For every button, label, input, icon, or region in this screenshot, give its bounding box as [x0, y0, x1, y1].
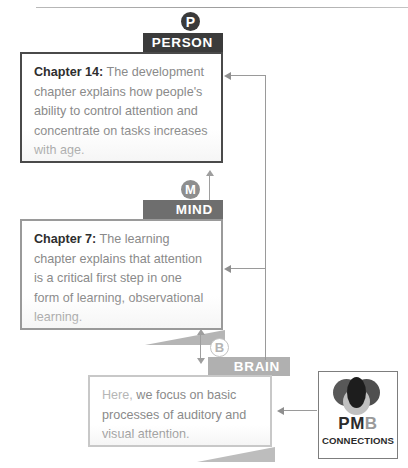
- page-top-rule: [36, 7, 408, 8]
- tab-mind-label: MIND: [176, 202, 213, 217]
- person-text: Chapter 14: The development chapter expl…: [34, 63, 210, 161]
- arrow-person-mind-line: [209, 175, 210, 201]
- connector-to-person-arrowhead-icon: [224, 72, 231, 80]
- pmb-connections-logo[interactable]: PMB CONNECTIONS: [318, 371, 398, 459]
- mind-text-box: Chapter 7: The learning chapter explains…: [20, 219, 223, 330]
- mind-badge-icon: M: [181, 180, 200, 199]
- connector-logo-to-brain-line: [283, 410, 317, 411]
- person-badge-icon: P: [181, 12, 200, 31]
- connector-to-mind-line: [229, 268, 265, 269]
- logo-wordmark-pm: PM: [338, 414, 365, 433]
- logo-subtitle: CONNECTIONS: [322, 435, 394, 446]
- person-text-box: Chapter 14: The development chapter expl…: [20, 52, 223, 163]
- arrow-mind-brain-line: [200, 334, 201, 359]
- arrow-mind-brain-down-icon: [197, 358, 205, 364]
- brain-text: Here, we focus on basic processes of aud…: [102, 386, 259, 445]
- mind-chapter-label: Chapter 7:: [34, 232, 96, 246]
- logo-wordmark: PMB: [338, 415, 377, 432]
- brain-box-tail: [197, 447, 275, 462]
- brain-badge-icon: B: [210, 338, 229, 357]
- brain-lead-in: Here,: [102, 388, 133, 402]
- tab-mind[interactable]: MIND: [143, 200, 223, 219]
- tab-brain-label: BRAIN: [234, 359, 280, 374]
- connector-vertical-rail: [265, 75, 266, 360]
- connector-to-person-line: [229, 75, 265, 76]
- tab-brain[interactable]: BRAIN: [208, 357, 290, 376]
- mind-text: Chapter 7: The learning chapter explains…: [34, 230, 210, 328]
- brain-text-box: Here, we focus on basic processes of aud…: [88, 375, 272, 447]
- connector-logo-to-brain-arrowhead-icon: [277, 407, 284, 415]
- logo-wordmark-b: B: [365, 414, 378, 433]
- figure-canvas: P PERSON Chapter 14: The development cha…: [0, 0, 408, 468]
- person-chapter-label: Chapter 14:: [34, 65, 103, 79]
- connector-to-mind-arrowhead-icon: [224, 265, 231, 273]
- venn-diagram-icon: [329, 377, 387, 413]
- tab-person-label: PERSON: [152, 35, 213, 50]
- venn-circle-center-overlap: [347, 377, 366, 408]
- tab-person[interactable]: PERSON: [143, 33, 223, 52]
